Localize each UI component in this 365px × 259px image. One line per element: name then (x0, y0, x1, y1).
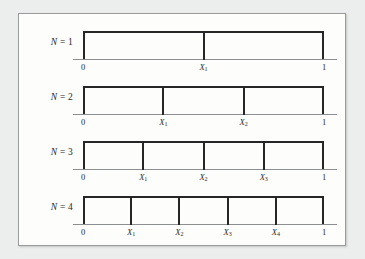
row-label-n1: N = 1 (19, 37, 73, 47)
row-label-equals: = (60, 147, 66, 157)
unit-interval-box (83, 86, 324, 114)
divider-x1 (130, 196, 132, 225)
interval-row-n4: N = 4X1X2X3X401 (19, 188, 347, 243)
divider-x2 (243, 86, 245, 115)
divider-x1 (142, 141, 144, 170)
row-label-variable: N (51, 37, 58, 47)
tick-label-x1: X1 (199, 62, 207, 75)
tick-subscript: 3 (229, 231, 232, 237)
tick-label-x2: X2 (199, 172, 207, 185)
row-label-variable: N (51, 202, 58, 212)
tick-variable: X1 (159, 117, 167, 127)
divider-x2 (178, 196, 180, 225)
axis-line (73, 59, 337, 60)
tick-variable: X4 (272, 227, 280, 237)
tick-label-x1: X1 (159, 117, 167, 130)
row-label-equals: = (60, 92, 66, 102)
interval-plot: X1X2X3X401 (73, 188, 339, 243)
interval-plot: X1X201 (73, 78, 339, 133)
axis-line (73, 169, 337, 170)
axis-line (73, 114, 337, 115)
tick-variable: X1 (139, 172, 147, 182)
tick-subscript: 2 (180, 231, 183, 237)
tick-label-x2: X2 (240, 117, 248, 130)
tick-label-one: 1 (322, 117, 326, 128)
unit-interval-box (83, 196, 324, 224)
divider-x1 (162, 86, 164, 115)
figure-panel: N = 1X101N = 2X1X201N = 3X1X2X301N = 4X1… (18, 13, 346, 246)
tick-label-zero: 0 (81, 117, 85, 128)
divider-x2 (203, 141, 205, 170)
tick-label-one: 1 (322, 62, 326, 73)
interval-plot: X1X2X301 (73, 133, 339, 188)
row-label-equals: = (60, 202, 66, 212)
row-label-n2: N = 2 (19, 92, 73, 102)
tick-subscript: 1 (132, 231, 135, 237)
row-label-n4: N = 4 (19, 202, 73, 212)
tick-label-x4: X4 (272, 227, 280, 240)
tick-label-x3: X3 (223, 227, 231, 240)
tick-label-x1: X1 (127, 227, 135, 240)
tick-label-zero: 0 (81, 227, 85, 238)
divider-x1 (203, 31, 205, 60)
tick-label-zero: 0 (81, 62, 85, 73)
tick-variable: X3 (223, 227, 231, 237)
row-label-n3: N = 3 (19, 147, 73, 157)
tick-subscript: 1 (205, 66, 208, 72)
tick-subscript: 1 (164, 121, 167, 127)
tick-variable: X2 (175, 227, 183, 237)
tick-variable: X2 (240, 117, 248, 127)
tick-variable: X3 (260, 172, 268, 182)
tick-subscript: 2 (245, 121, 248, 127)
interval-plot: X101 (73, 23, 339, 78)
tick-label-zero: 0 (81, 172, 85, 183)
divider-x3 (263, 141, 265, 170)
divider-x3 (227, 196, 229, 225)
tick-variable: X2 (199, 172, 207, 182)
interval-row-n3: N = 3X1X2X301 (19, 133, 347, 188)
row-label-variable: N (51, 92, 58, 102)
row-label-equals: = (60, 37, 66, 47)
tick-subscript: 4 (277, 231, 280, 237)
interval-row-n1: N = 1X101 (19, 23, 347, 78)
tick-subscript: 2 (205, 176, 208, 182)
divider-x4 (275, 196, 277, 225)
tick-subscript: 3 (265, 176, 268, 182)
tick-subscript: 1 (144, 176, 147, 182)
interval-row-n2: N = 2X1X201 (19, 78, 347, 133)
tick-label-x1: X1 (139, 172, 147, 185)
tick-label-one: 1 (322, 227, 326, 238)
row-label-variable: N (51, 147, 58, 157)
tick-label-x3: X3 (260, 172, 268, 185)
tick-label-x2: X2 (175, 227, 183, 240)
figure-root: N = 1X101N = 2X1X201N = 3X1X2X301N = 4X1… (0, 0, 365, 259)
tick-variable: X1 (127, 227, 135, 237)
axis-line (73, 224, 337, 225)
tick-variable: X1 (199, 62, 207, 72)
tick-label-one: 1 (322, 172, 326, 183)
